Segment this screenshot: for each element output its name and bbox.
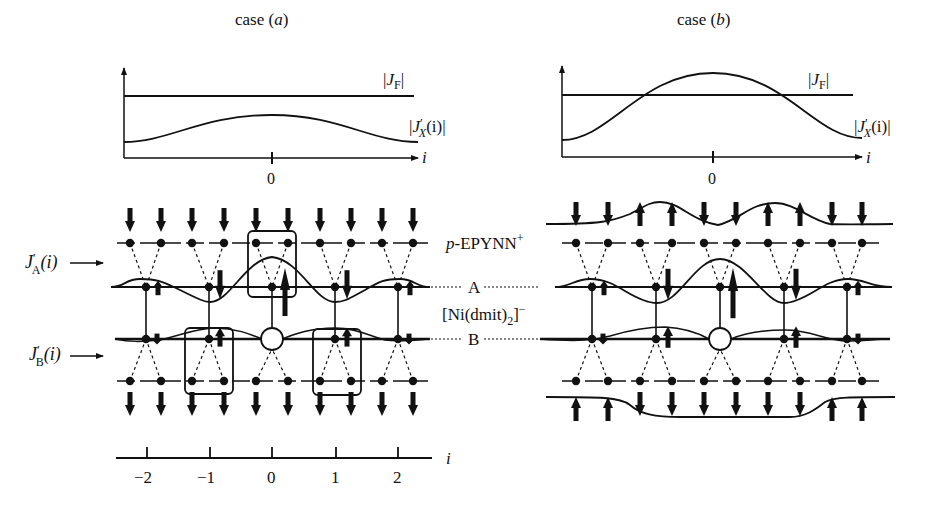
svg-text:1: 1 (331, 468, 340, 487)
jx-curve (124, 115, 418, 142)
x-axis-var: i (422, 148, 427, 167)
graph-case-b: case (b) 0 i |JF| |J′X(i)| (562, 10, 891, 187)
site-index-axis: −2 −1 0 1 2 i (116, 447, 451, 487)
spins-case-b (571, 202, 867, 421)
label-ja: J′A(i) (25, 250, 103, 277)
x-tick-label: 0 (267, 170, 275, 187)
svg-text:−1: −1 (197, 468, 215, 487)
title-case-b: case (b) (677, 10, 730, 29)
jx-label: |J′X(i)| (409, 115, 446, 140)
vacancy-circle (261, 328, 283, 350)
row-b-label: B (468, 330, 479, 349)
svg-text:J′B(i): J′B(i) (29, 342, 61, 369)
x-axis-var: i (866, 148, 871, 167)
jx-label: |J′X(i)| (854, 115, 891, 140)
row-a-label: A (468, 278, 481, 297)
wave-a (111, 257, 430, 302)
lattice-case-b (540, 202, 895, 417)
svg-text:J′A(i): J′A(i) (25, 250, 58, 277)
svg-text:−2: −2 (134, 468, 152, 487)
cation-label: p-EPYNN+ (445, 231, 524, 253)
anion-label: [Ni(dmit)2]− (442, 302, 526, 328)
jf-label: |JF| (808, 70, 829, 92)
label-jb: J′B(i) (29, 342, 103, 369)
dots-case-b (572, 239, 866, 385)
lattice-case-a (111, 231, 430, 395)
title-case-a: case (a) (235, 10, 288, 29)
center-labels: p-EPYNN+ A [Ni(dmit)2]− B (431, 231, 540, 349)
graph-case-a: case (a) 0 i |JF| |J′X(i)| (124, 10, 446, 187)
jf-label: |JF| (383, 70, 404, 92)
figure-canvas: case (a) 0 i |JF| |J′X(i)| case (b) 0 i … (0, 0, 927, 517)
svg-text:0: 0 (267, 468, 276, 487)
svg-text:2: 2 (393, 468, 402, 487)
svg-text:i: i (446, 449, 451, 468)
x-tick-label: 0 (708, 170, 716, 187)
